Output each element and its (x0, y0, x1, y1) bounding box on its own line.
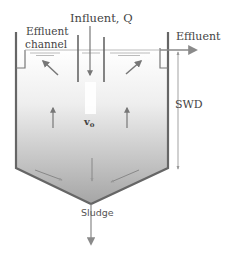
feed-well-plume (85, 82, 96, 114)
clarifier-diagram: Influent, Q Effluent channel Effluent SW… (0, 0, 229, 254)
effluent-channel-label-line2: channel (25, 38, 68, 50)
influent-label: Influent, Q (70, 11, 133, 25)
overflow-velocity-subscript: o (90, 120, 95, 129)
effluent-channel-label-line1: Effluent (26, 25, 69, 37)
sludge-label: Sludge (81, 207, 114, 218)
effluent-label: Effluent (176, 30, 221, 43)
swd-label: SWD (175, 98, 203, 111)
